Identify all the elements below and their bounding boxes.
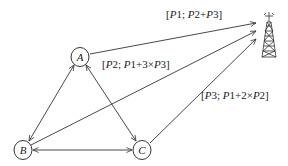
node-c-label: C: [138, 144, 146, 156]
label-b-tower: [P2; P1+3×P3]: [102, 58, 170, 70]
edge-b-tower: [31, 31, 256, 145]
label-a-tower: [P1; P2+P3]: [166, 8, 222, 20]
node-a-label: A: [76, 51, 84, 63]
cell-tower-icon: [262, 12, 276, 57]
edge-a-c: [86, 65, 136, 141]
relay-diagram: A B C [P1; P2+P3] [P2; P1+3×P3] [P3; P1+…: [0, 0, 288, 166]
node-b-label: B: [20, 144, 27, 156]
node-b: B: [14, 141, 32, 160]
node-a: A: [71, 48, 89, 67]
node-c: C: [133, 141, 151, 160]
label-c-tower: [P3; P1+2×P2]: [201, 89, 269, 101]
edge-a-b: [29, 65, 74, 141]
edge-a-tower: [90, 23, 256, 54]
